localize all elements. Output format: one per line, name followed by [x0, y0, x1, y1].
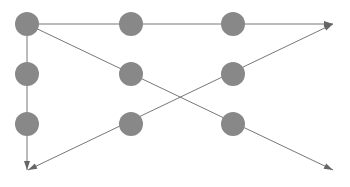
graph-node-r3c2[interactable]	[119, 112, 143, 136]
graph-node-r1c3[interactable]	[221, 12, 245, 36]
graph-node-r1c1[interactable]	[15, 12, 39, 36]
graph-node-r3c1[interactable]	[15, 112, 39, 136]
graph-node-r2c2[interactable]	[119, 62, 143, 86]
edge-layer	[24, 21, 333, 170]
graph-node-r2c1[interactable]	[15, 62, 39, 86]
diagram-svg	[0, 0, 350, 187]
graph-node-r1c2[interactable]	[119, 12, 143, 36]
edge-diagonal-descending-arrowhead-end	[324, 163, 333, 170]
edge-diagonal-ascending-arrowhead-start	[28, 163, 37, 170]
diagram-canvas	[0, 0, 350, 187]
edge-vertical-left	[24, 24, 30, 170]
edge-vertical-left-arrowhead-end	[24, 161, 30, 170]
graph-node-r2c3[interactable]	[221, 62, 245, 86]
node-layer	[15, 12, 245, 136]
graph-node-r3c3[interactable]	[221, 112, 245, 136]
edge-horizontal-top	[27, 21, 333, 27]
